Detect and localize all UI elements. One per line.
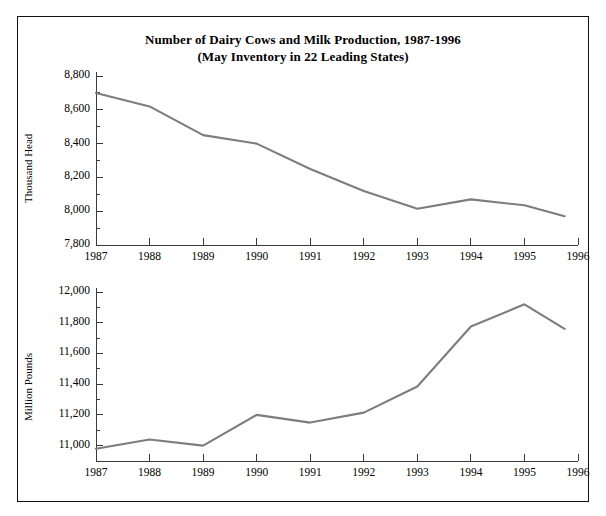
title-line-1: Number of Dairy Cows and Milk Production… bbox=[17, 31, 589, 48]
y-tick-label: 8,400 bbox=[30, 136, 90, 148]
x-tick-label: 1987 bbox=[71, 250, 121, 262]
x-tick-label: 1993 bbox=[392, 250, 442, 262]
y-tick-label: 8,800 bbox=[30, 68, 90, 80]
x-tick-label: 1988 bbox=[125, 250, 175, 262]
chart-thousand-head: 7,8008,0008,2008,4008,6008,8001987198819… bbox=[0, 60, 606, 275]
x-tick-label: 1987 bbox=[71, 466, 121, 478]
x-tick-label: 1989 bbox=[178, 466, 228, 478]
chart-page: Number of Dairy Cows and Milk Production… bbox=[0, 0, 606, 516]
y-tick-label: 12,000 bbox=[30, 284, 90, 296]
data-series-line bbox=[96, 304, 565, 448]
x-tick-label: 1996 bbox=[553, 466, 603, 478]
y-tick-label: 8,200 bbox=[30, 169, 90, 181]
x-tick-label: 1990 bbox=[232, 250, 282, 262]
y-tick-label: 11,200 bbox=[30, 407, 90, 419]
x-tick-label: 1992 bbox=[339, 466, 389, 478]
data-series-line bbox=[96, 93, 565, 216]
x-tick-label: 1993 bbox=[392, 466, 442, 478]
y-tick-label: 11,400 bbox=[30, 376, 90, 388]
y-tick-label: 7,800 bbox=[30, 237, 90, 249]
y-axis-title: Thousand Head bbox=[22, 133, 34, 202]
x-tick-label: 1995 bbox=[499, 466, 549, 478]
x-tick-label: 1992 bbox=[339, 250, 389, 262]
y-tick-label: 8,600 bbox=[30, 102, 90, 114]
y-tick-label: 11,800 bbox=[30, 315, 90, 327]
y-axis-title: Million Pounds bbox=[22, 352, 34, 420]
top-chart-svg bbox=[0, 60, 606, 275]
bottom-chart-svg bbox=[0, 278, 606, 496]
x-tick-label: 1989 bbox=[178, 250, 228, 262]
x-tick-label: 1991 bbox=[285, 250, 335, 262]
x-tick-label: 1991 bbox=[285, 466, 335, 478]
chart-million-pounds: 11,00011,20011,40011,60011,80012,0001987… bbox=[0, 278, 606, 496]
y-tick-label: 8,000 bbox=[30, 203, 90, 215]
y-tick-label: 11,600 bbox=[30, 345, 90, 357]
x-tick-label: 1990 bbox=[232, 466, 282, 478]
x-tick-label: 1994 bbox=[446, 466, 496, 478]
x-tick-label: 1994 bbox=[446, 250, 496, 262]
x-tick-label: 1996 bbox=[553, 250, 603, 262]
x-tick-label: 1988 bbox=[125, 466, 175, 478]
y-tick-label: 11,000 bbox=[30, 438, 90, 450]
x-tick-label: 1995 bbox=[499, 250, 549, 262]
